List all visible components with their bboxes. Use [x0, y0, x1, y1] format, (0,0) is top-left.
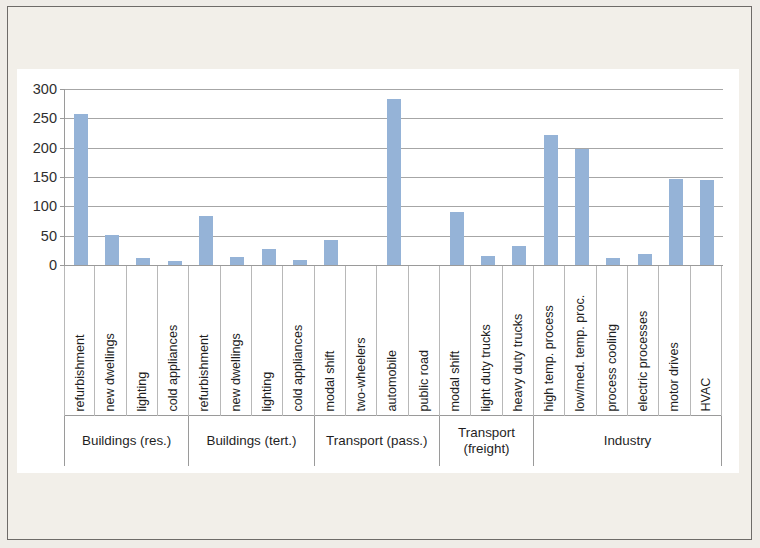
bar-slot: [566, 89, 597, 265]
category-label-cell: modal shift: [315, 266, 346, 416]
category-label: cold appliances: [292, 325, 305, 412]
category-label: process cooling: [606, 324, 619, 412]
bars-layer: [65, 89, 723, 265]
category-label-cell: new dwellings: [95, 266, 126, 416]
category-label: public road: [418, 350, 431, 412]
bar-slot: [441, 89, 472, 265]
category-label-cell: process cooling: [597, 266, 628, 416]
bar-slot: [284, 89, 315, 265]
category-label-cell: automobile: [377, 266, 408, 416]
category-label-cell: refurbishment: [64, 266, 95, 416]
category-label: refurbishment: [73, 335, 86, 412]
bar-slot: [598, 89, 629, 265]
bar-slot: [128, 89, 159, 265]
group-label-cell: Buildings (tert.): [189, 416, 314, 466]
category-labels-band: refurbishmentnew dwellingslightingcold a…: [64, 266, 722, 416]
category-label-cell: cold appliances: [158, 266, 189, 416]
category-label-cell: public road: [409, 266, 440, 416]
bar-slot: [190, 89, 221, 265]
chart-card: 050100150200250300 refurbishmentnew dwel…: [17, 69, 739, 473]
bar[interactable]: [262, 249, 276, 265]
y-axis-tick-label: 200: [17, 140, 57, 155]
bar[interactable]: [512, 246, 526, 265]
group-label-cell: Buildings (res.): [64, 416, 189, 466]
y-axis-tick-labels: 050100150200250300: [17, 89, 57, 265]
category-label: heavy duty trucks: [512, 314, 525, 412]
category-label: lighting: [136, 372, 149, 412]
bar-chart: 050100150200250300 refurbishmentnew dwel…: [17, 69, 739, 473]
bar-slot: [504, 89, 535, 265]
category-label: modal shift: [324, 351, 337, 412]
category-label: electric processes: [637, 311, 650, 412]
y-axis-tick-label: 50: [17, 228, 57, 243]
bar[interactable]: [450, 212, 464, 265]
group-label-cell: Industry: [534, 416, 722, 466]
plot-area: [64, 89, 723, 265]
category-label-cell: motor drives: [659, 266, 690, 416]
bar[interactable]: [74, 114, 88, 265]
bar-slot: [222, 89, 253, 265]
category-label-cell: low/med. temp. proc.: [565, 266, 596, 416]
group-label-cell: Transport (pass.): [315, 416, 440, 466]
y-axis-tick-label: 300: [17, 82, 57, 97]
bar[interactable]: [700, 180, 714, 265]
category-label: lighting: [261, 372, 274, 412]
category-label: light duty trucks: [480, 325, 493, 413]
category-label-cell: electric processes: [628, 266, 659, 416]
bar-slot: [347, 89, 378, 265]
bar[interactable]: [544, 135, 558, 265]
bar[interactable]: [575, 149, 589, 265]
category-label-cell: refurbishment: [189, 266, 220, 416]
group-label: Buildings (tert.): [204, 433, 298, 449]
category-label: new dwellings: [104, 334, 117, 412]
category-label-cell: light duty trucks: [471, 266, 502, 416]
bar-slot: [472, 89, 503, 265]
y-axis-tick-label: 250: [17, 111, 57, 126]
category-label-cell: high temp. process: [534, 266, 565, 416]
bar[interactable]: [105, 235, 119, 266]
page-frame: 050100150200250300 refurbishmentnew dwel…: [7, 6, 752, 540]
bar-slot: [629, 89, 660, 265]
bar[interactable]: [638, 254, 652, 265]
category-label-cell: new dwellings: [221, 266, 252, 416]
group-label: Transport (pass.): [324, 433, 429, 449]
bar[interactable]: [324, 240, 338, 265]
category-label-cell: cold appliances: [283, 266, 314, 416]
category-label-cell: two-wheelers: [346, 266, 377, 416]
category-label: cold appliances: [167, 325, 180, 412]
category-label: motor drives: [668, 343, 681, 412]
bar-slot: [253, 89, 284, 265]
bar-slot: [159, 89, 190, 265]
bar-slot: [96, 89, 127, 265]
category-label: high temp. process: [543, 306, 556, 412]
bar[interactable]: [481, 256, 495, 265]
category-label: automobile: [386, 350, 399, 412]
category-label: new dwellings: [230, 334, 243, 412]
bar-slot: [692, 89, 723, 265]
bar[interactable]: [387, 99, 401, 265]
y-axis-tick-label: 150: [17, 170, 57, 185]
y-axis-tick-label: 100: [17, 199, 57, 214]
category-label: HVAC: [700, 378, 713, 412]
category-label-cell: modal shift: [440, 266, 471, 416]
bar-slot: [660, 89, 691, 265]
bar-slot: [378, 89, 409, 265]
bar[interactable]: [230, 257, 244, 265]
category-label: modal shift: [449, 351, 462, 412]
y-axis-tick-label: 0: [17, 258, 57, 273]
bar[interactable]: [606, 258, 620, 265]
bar-slot: [65, 89, 96, 265]
group-labels-band: Buildings (res.)Buildings (tert.)Transpo…: [64, 416, 722, 466]
bar-slot: [316, 89, 347, 265]
bar[interactable]: [199, 216, 213, 265]
bar-slot: [410, 89, 441, 265]
group-label: Industry: [602, 433, 654, 449]
bar[interactable]: [669, 179, 683, 265]
category-label-cell: lighting: [252, 266, 283, 416]
bar[interactable]: [136, 258, 150, 265]
group-label-cell: Transport(freight): [440, 416, 534, 466]
category-label: refurbishment: [198, 335, 211, 412]
category-label-cell: heavy duty trucks: [503, 266, 534, 416]
category-label-cell: HVAC: [691, 266, 722, 416]
group-label: Transport(freight): [456, 425, 517, 457]
